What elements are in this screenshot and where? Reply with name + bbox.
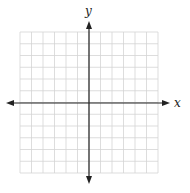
y-axis-label: y [84,4,92,18]
coordinate-plane: x y [0,0,190,193]
x-axis-left-arrow-icon [6,100,14,106]
x-axis-label: x [174,96,181,110]
x-axis-right-arrow-icon [162,100,170,106]
y-axis-bottom-arrow-icon [86,176,92,184]
y-axis-top-arrow-icon [86,21,92,29]
